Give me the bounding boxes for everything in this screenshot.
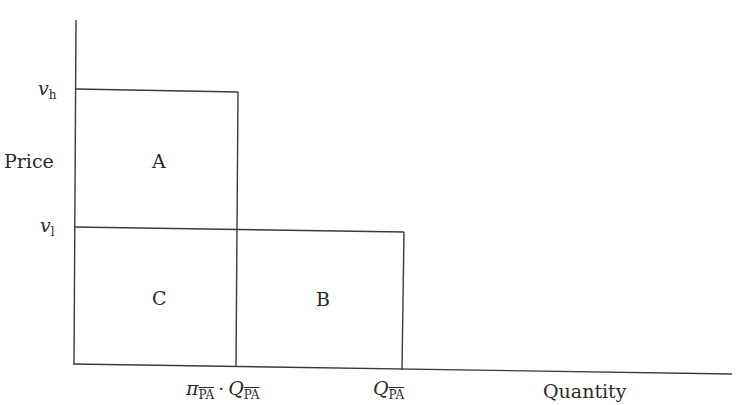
x-axis-label: Quantity	[543, 380, 626, 402]
dot-operator: ·	[218, 377, 224, 399]
vl-subscript: l	[51, 225, 55, 239]
q-symbol: Q	[373, 377, 389, 399]
pi-subscript: PA	[199, 388, 215, 402]
x-tick-pi-q: πPA·QPA	[186, 377, 259, 402]
q-subscript: PA	[389, 388, 405, 402]
q-vertical	[402, 232, 404, 370]
vh-subscript: h	[49, 88, 57, 102]
pi-symbol: π	[186, 377, 199, 399]
region-c-label: C	[152, 287, 167, 309]
diagram-canvas	[0, 0, 741, 405]
vl-symbol: v	[40, 214, 51, 236]
y-tick-vh: vh	[38, 77, 56, 102]
y-tick-vl: vl	[40, 214, 55, 239]
vh-symbol: v	[38, 77, 49, 99]
vh-line	[76, 89, 238, 92]
region-b-label: B	[316, 288, 330, 310]
vl-line	[74, 227, 404, 232]
region-a-label: A	[152, 150, 166, 172]
x-tick-q: QPA	[373, 377, 404, 402]
q-symbol: Q	[228, 377, 244, 399]
y-axis	[74, 20, 76, 364]
q-subscript: PA	[244, 388, 260, 402]
y-axis-label: Price	[4, 150, 54, 172]
